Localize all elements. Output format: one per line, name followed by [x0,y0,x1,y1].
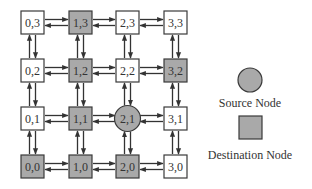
node-3-1: 3,1 [164,107,187,130]
node-label: 1,2 [73,64,88,78]
node-label: 1,1 [73,112,88,126]
node-label: 3,3 [168,16,183,30]
node-label: 3,1 [168,112,183,126]
node-2-0: 2,0 [116,155,139,178]
node-1-0: 1,0 [69,155,92,178]
legend-source-label: Source Node [219,96,281,110]
node-label: 0,0 [25,160,40,174]
node-2-2: 2,2 [116,59,139,82]
legend-destination-label: Destination Node [208,148,292,162]
links-layer [30,20,179,170]
node-1-1: 1,1 [69,107,92,130]
node-0-2: 0,2 [21,59,44,82]
node-label: 0,2 [25,64,40,78]
node-label: 0,1 [25,112,40,126]
node-label: 2,3 [120,16,135,30]
node-label: 3,0 [168,160,183,174]
node-1-2: 1,2 [69,59,92,82]
node-label: 3,2 [168,64,183,78]
node-label: 2,1 [120,112,135,126]
node-2-3: 2,3 [116,11,139,34]
node-2-1: 2,1 [115,106,141,132]
node-label: 2,0 [120,160,135,174]
node-0-1: 0,1 [21,107,44,130]
node-3-0: 3,0 [164,155,187,178]
node-3-2: 3,2 [164,59,187,82]
node-0-3: 0,3 [21,11,44,34]
node-1-3: 1,3 [69,11,92,34]
node-3-3: 3,3 [164,11,187,34]
mesh-diagram: 0,31,32,33,30,21,22,23,20,11,12,13,10,01… [0,0,312,189]
legend-destination-icon [239,116,262,139]
legend: Source Node Destination Node [208,68,292,162]
node-0-0: 0,0 [21,155,44,178]
node-label: 2,2 [120,64,135,78]
node-label: 1,0 [73,160,88,174]
legend-source-icon [238,68,262,92]
node-label: 0,3 [25,16,40,30]
node-label: 1,3 [73,16,88,30]
nodes-layer: 0,31,32,33,30,21,22,23,20,11,12,13,10,01… [21,11,187,178]
